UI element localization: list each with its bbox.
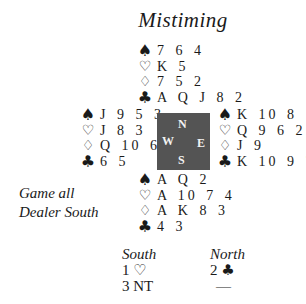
heart-icon: ♡ — [137, 59, 153, 75]
north-clubs: A Q J 8 2 — [157, 90, 245, 106]
spade-icon: ♠ — [137, 43, 153, 59]
west-spades: J 9 5 3 — [100, 107, 164, 123]
bid: 1 ♡ — [122, 262, 156, 278]
club-icon: ♣ — [137, 219, 153, 235]
east-spades: K 10 8 — [237, 107, 297, 123]
compass-west: W — [162, 134, 174, 149]
north-hearts: K 5 — [157, 59, 189, 75]
bid: 2 ♣ — [210, 262, 245, 278]
east-diamonds: J 9 — [237, 138, 264, 154]
spade-icon: ♠ — [80, 107, 96, 123]
heart-icon: ♡ — [80, 123, 96, 139]
club-icon: ♣ — [137, 90, 153, 106]
bidding-north-column: North 2 ♣ — — [210, 246, 245, 294]
heart-icon: ♡ — [133, 261, 146, 279]
south-diamonds: A K 8 3 — [157, 203, 228, 219]
vulnerability-label: Game all — [19, 185, 74, 202]
south-hearts: A 10 7 4 — [157, 188, 235, 204]
east-clubs: K 10 9 7 — [237, 154, 306, 170]
club-icon: ♣ — [221, 261, 234, 279]
compass-north: N — [178, 117, 187, 132]
club-icon: ♣ — [217, 154, 233, 170]
heart-icon: ♡ — [217, 123, 233, 139]
bid-pass: — — [210, 278, 245, 294]
club-icon: ♣ — [80, 154, 96, 170]
compass-south: S — [178, 153, 185, 168]
compass-east: E — [197, 136, 205, 151]
east-hearts: Q 9 6 2 — [237, 123, 306, 139]
dealer-label: Dealer South — [19, 204, 99, 221]
north-spades: 7 6 4 — [157, 43, 204, 59]
bidding-south-column: South 1 ♡ 3 NT — [122, 246, 156, 294]
west-clubs: 6 5 — [100, 154, 129, 170]
spade-icon: ♠ — [137, 172, 153, 188]
north-diamonds: 7 5 2 — [157, 74, 204, 90]
bidding-header-south: South — [122, 246, 156, 262]
south-clubs: 4 3 — [157, 219, 186, 235]
diagram-title: Mistiming — [0, 8, 306, 33]
bid: 3 NT — [122, 278, 156, 294]
spade-icon: ♠ — [217, 107, 233, 123]
bidding-header-north: North — [210, 246, 245, 262]
compass-box: N W E S — [157, 113, 210, 170]
south-spades: A Q 2 — [157, 172, 209, 188]
heart-icon: ♡ — [137, 188, 153, 204]
west-hearts: J 8 3 — [100, 123, 145, 139]
